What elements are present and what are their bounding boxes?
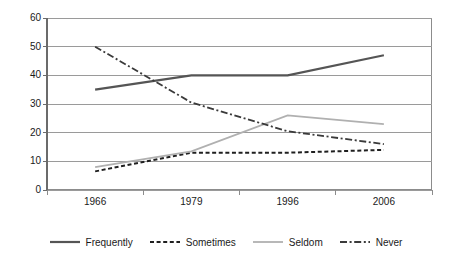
y-tick-label: 50	[3, 42, 41, 52]
x-tick-label: 1996	[258, 196, 318, 208]
y-tick-label: 0	[3, 185, 41, 195]
legend-swatch-icon	[150, 237, 180, 247]
y-tick-label: 30	[3, 99, 41, 109]
legend-swatch-icon	[253, 237, 283, 247]
legend-swatch-icon	[50, 237, 80, 247]
data-series-group	[95, 47, 384, 172]
x-tick-label: 1979	[161, 196, 221, 208]
legend-item-never[interactable]: Never	[340, 237, 403, 248]
y-tick-label: 20	[3, 128, 41, 138]
y-axis-labels: 0102030405060	[0, 0, 41, 261]
line-chart: 0102030405060 1966197919962006 Frequentl…	[0, 0, 452, 261]
y-axis-ticks	[43, 18, 47, 190]
legend-label: Sometimes	[186, 237, 236, 248]
gridlines	[47, 18, 432, 190]
y-tick-label: 40	[3, 70, 41, 80]
x-tick-label: 2006	[354, 196, 414, 208]
series-line-never	[95, 47, 384, 144]
x-axis-labels: 1966197919962006	[47, 196, 432, 212]
x-tick-label: 1966	[65, 196, 125, 208]
y-tick-label: 60	[3, 13, 41, 23]
legend-label: Never	[376, 237, 403, 248]
chart-legend: FrequentlySometimesSeldomNever	[0, 232, 452, 252]
legend-swatch-icon	[340, 237, 370, 247]
legend-item-sometimes[interactable]: Sometimes	[150, 237, 236, 248]
legend-item-seldom[interactable]: Seldom	[253, 237, 323, 248]
y-tick-label: 10	[3, 156, 41, 166]
x-axis-ticks	[47, 190, 432, 195]
series-line-seldom	[95, 115, 384, 167]
legend-label: Seldom	[289, 237, 323, 248]
legend-item-frequently[interactable]: Frequently	[50, 237, 133, 248]
legend-label: Frequently	[86, 237, 133, 248]
series-line-frequently	[95, 55, 384, 89]
chart-canvas	[0, 0, 452, 261]
